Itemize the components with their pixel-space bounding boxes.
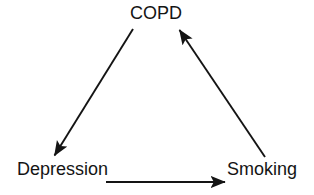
node-label-copd: COPD [130,4,182,22]
node-label-depression: Depression [17,160,108,178]
node-label-smoking: Smoking [227,160,297,178]
edge-smoking-to-copd [180,30,266,157]
edge-copd-to-depression [55,29,134,156]
diagram-canvas: COPD Depression Smoking [0,0,314,195]
